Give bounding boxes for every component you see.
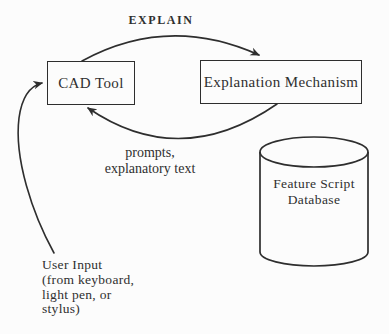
user-input-arrow xyxy=(18,83,54,253)
edge-label-explain: EXPLAIN xyxy=(118,13,204,28)
diagram-canvas: CAD Tool Explanation Mechanism EXPLAIN p… xyxy=(0,0,389,334)
prompts-arrow xyxy=(88,104,277,139)
node-cad-tool-label: CAD Tool xyxy=(58,75,124,92)
edge-label-prompts-line2: explanatory text xyxy=(90,161,210,177)
edge-label-user-input-line2: (from keyboard, xyxy=(42,273,162,288)
node-database-label-line1: Feature Script xyxy=(259,176,369,192)
edge-label-user-input-line4: stylus) xyxy=(42,302,162,317)
edge-label-prompts-line1: prompts, xyxy=(90,145,210,161)
edge-label-prompts: prompts, explanatory text xyxy=(90,145,210,177)
node-database-label: Feature Script Database xyxy=(259,176,369,207)
node-database-label-line2: Database xyxy=(259,192,369,208)
node-explanation-mechanism: Explanation Mechanism xyxy=(200,60,362,104)
edge-label-user-input-line3: light pen, or xyxy=(42,288,162,303)
edge-label-user-input-line1: User Input xyxy=(42,258,162,273)
explain-arrow xyxy=(82,36,259,61)
node-cad-tool: CAD Tool xyxy=(47,61,135,105)
edge-label-user-input: User Input (from keyboard, light pen, or… xyxy=(42,258,162,317)
node-explanation-mechanism-label: Explanation Mechanism xyxy=(204,74,359,91)
